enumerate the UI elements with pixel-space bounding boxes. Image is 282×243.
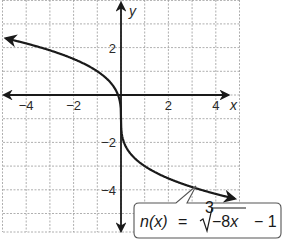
y-axis-label: y [128, 3, 137, 19]
equals-sign: = [178, 213, 187, 230]
x-tick-label: −4 [19, 98, 34, 113]
x-tick-label: 4 [212, 98, 219, 113]
tick-labels: −4−2242−2−4 [19, 41, 220, 198]
x-tick-label: −2 [66, 98, 81, 113]
y-tick-label: −4 [101, 183, 116, 198]
x-tick-label: 2 [165, 98, 172, 113]
function-name: n(x) [140, 213, 168, 230]
y-tick-label: −2 [101, 135, 116, 150]
equation-callout: n(x) = 3 −8x − 1 [134, 186, 281, 238]
constant-term: − 1 [254, 213, 277, 230]
function-graph: xy −4−2242−2−4 n(x) = 3 −8x − 1 [0, 0, 282, 243]
y-tick-label: 2 [109, 41, 116, 56]
equation-text: n(x) = [140, 213, 187, 230]
x-axis-label: x [229, 97, 238, 113]
radicand: −8x [212, 213, 239, 230]
